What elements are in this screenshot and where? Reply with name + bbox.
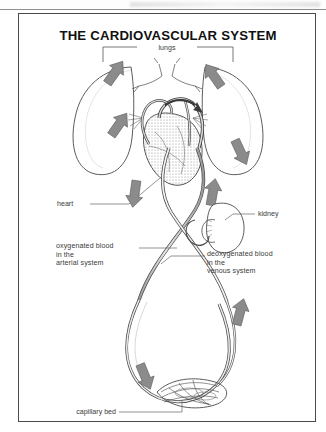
scan-smudge — [130, 2, 320, 7]
deoxygenated-leader-line — [161, 256, 205, 264]
flow-arrow-vena-cava-ascending — [202, 177, 223, 207]
heart — [142, 99, 203, 185]
oxygenated-line-1: oxygenated blood — [56, 242, 114, 251]
oxygenated-blood-label: oxygenated blood in the arterial system — [56, 242, 114, 268]
heart-label: heart — [57, 200, 73, 208]
deoxygenated-line-1: deoxygenated blood — [207, 250, 273, 259]
scan-edge-artifact — [0, 0, 326, 11]
deoxygenated-line-2: in the — [207, 259, 273, 268]
lungs-callout: lungs — [103, 44, 233, 62]
flow-arrow-loop-left-down — [132, 361, 158, 392]
lungs-label: lungs — [159, 44, 176, 52]
bronchial-tree — [132, 58, 202, 92]
oxygenated-line-2: in the — [56, 251, 114, 260]
cardiovascular-illustration: lungs — [19, 14, 317, 423]
systemic-circuit-loop — [127, 300, 235, 402]
scan-top-rule — [0, 9, 326, 10]
figure-frame: THE CARDIOVASCULAR SYSTEM lungs — [18, 13, 316, 422]
capillary-bed-label: capillary bed — [76, 408, 116, 416]
right-lung — [202, 67, 263, 175]
oxygenated-line-3: arterial system — [56, 259, 114, 268]
capillary-bed-callout: capillary bed — [76, 400, 182, 416]
heart-callout: heart — [57, 178, 160, 208]
deoxygenated-blood-label: deoxygenated blood in the venous system — [207, 250, 273, 276]
deoxygenated-line-3: venous system — [207, 267, 273, 276]
kidney-label: kidney — [258, 210, 279, 218]
